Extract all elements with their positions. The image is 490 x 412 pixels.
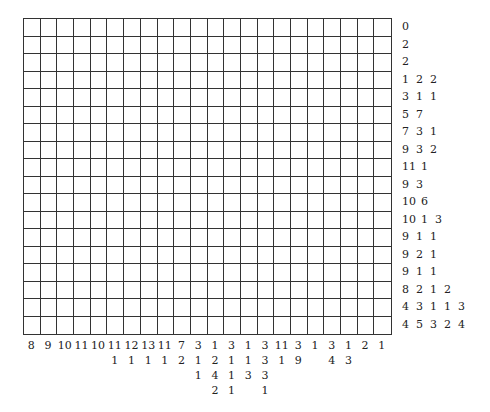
grid-cell[interactable] <box>91 142 108 160</box>
grid-cell[interactable] <box>241 159 258 177</box>
grid-cell[interactable] <box>324 19 341 37</box>
grid-cell[interactable] <box>358 282 375 300</box>
grid-cell[interactable] <box>174 72 191 90</box>
grid-cell[interactable] <box>141 37 158 55</box>
grid-cell[interactable] <box>57 282 74 300</box>
grid-cell[interactable] <box>141 124 158 142</box>
grid-cell[interactable] <box>107 107 124 125</box>
grid-cell[interactable] <box>274 19 291 37</box>
grid-cell[interactable] <box>174 54 191 72</box>
grid-cell[interactable] <box>124 89 141 107</box>
grid-cell[interactable] <box>208 317 225 335</box>
grid-cell[interactable] <box>208 299 225 317</box>
grid-cell[interactable] <box>124 264 141 282</box>
grid-cell[interactable] <box>74 299 91 317</box>
grid-cell[interactable] <box>224 107 241 125</box>
grid-cell[interactable] <box>208 124 225 142</box>
grid-cell[interactable] <box>158 142 175 160</box>
grid-cell[interactable] <box>41 159 58 177</box>
grid-cell[interactable] <box>41 282 58 300</box>
grid-cell[interactable] <box>341 159 358 177</box>
grid-cell[interactable] <box>308 54 325 72</box>
grid-cell[interactable] <box>324 142 341 160</box>
grid-cell[interactable] <box>341 212 358 230</box>
grid-cell[interactable] <box>341 177 358 195</box>
grid-cell[interactable] <box>274 317 291 335</box>
grid-cell[interactable] <box>141 264 158 282</box>
grid-cell[interactable] <box>374 72 391 90</box>
grid-cell[interactable] <box>308 159 325 177</box>
grid-cell[interactable] <box>174 107 191 125</box>
grid-cell[interactable] <box>174 159 191 177</box>
grid-cell[interactable] <box>24 124 41 142</box>
grid-cell[interactable] <box>358 19 375 37</box>
grid-cell[interactable] <box>258 124 275 142</box>
grid-cell[interactable] <box>141 89 158 107</box>
grid-cell[interactable] <box>341 194 358 212</box>
grid-cell[interactable] <box>141 194 158 212</box>
grid-cell[interactable] <box>91 107 108 125</box>
grid-cell[interactable] <box>41 177 58 195</box>
grid-cell[interactable] <box>57 264 74 282</box>
grid-cell[interactable] <box>291 54 308 72</box>
grid-cell[interactable] <box>324 89 341 107</box>
grid-cell[interactable] <box>374 177 391 195</box>
grid-cell[interactable] <box>57 37 74 55</box>
grid-cell[interactable] <box>374 299 391 317</box>
grid-cell[interactable] <box>174 177 191 195</box>
grid-cell[interactable] <box>41 107 58 125</box>
grid-cell[interactable] <box>291 19 308 37</box>
grid-cell[interactable] <box>57 212 74 230</box>
grid-cell[interactable] <box>308 282 325 300</box>
grid-cell[interactable] <box>241 19 258 37</box>
grid-cell[interactable] <box>341 247 358 265</box>
grid-cell[interactable] <box>274 264 291 282</box>
grid-cell[interactable] <box>74 177 91 195</box>
grid-cell[interactable] <box>241 54 258 72</box>
grid-cell[interactable] <box>141 247 158 265</box>
grid-cell[interactable] <box>241 124 258 142</box>
grid-cell[interactable] <box>224 159 241 177</box>
grid-cell[interactable] <box>124 317 141 335</box>
grid-cell[interactable] <box>174 19 191 37</box>
grid-cell[interactable] <box>74 19 91 37</box>
grid-cell[interactable] <box>191 282 208 300</box>
grid-cell[interactable] <box>107 282 124 300</box>
grid-cell[interactable] <box>358 124 375 142</box>
grid-cell[interactable] <box>258 72 275 90</box>
grid-cell[interactable] <box>24 194 41 212</box>
grid-cell[interactable] <box>158 212 175 230</box>
grid-cell[interactable] <box>174 247 191 265</box>
grid-cell[interactable] <box>274 229 291 247</box>
grid-cell[interactable] <box>57 19 74 37</box>
grid-cell[interactable] <box>41 247 58 265</box>
grid-cell[interactable] <box>241 72 258 90</box>
grid-cell[interactable] <box>41 72 58 90</box>
grid-cell[interactable] <box>57 247 74 265</box>
grid-cell[interactable] <box>57 194 74 212</box>
grid-cell[interactable] <box>208 194 225 212</box>
grid-cell[interactable] <box>324 124 341 142</box>
grid-cell[interactable] <box>274 247 291 265</box>
grid-cell[interactable] <box>308 299 325 317</box>
grid-cell[interactable] <box>158 159 175 177</box>
grid-cell[interactable] <box>158 229 175 247</box>
grid-cell[interactable] <box>291 194 308 212</box>
grid-cell[interactable] <box>374 264 391 282</box>
grid-cell[interactable] <box>224 19 241 37</box>
grid-cell[interactable] <box>258 299 275 317</box>
grid-cell[interactable] <box>91 89 108 107</box>
grid-cell[interactable] <box>241 264 258 282</box>
grid-cell[interactable] <box>258 107 275 125</box>
grid-cell[interactable] <box>374 107 391 125</box>
grid-cell[interactable] <box>308 212 325 230</box>
grid-cell[interactable] <box>24 107 41 125</box>
grid-cell[interactable] <box>241 212 258 230</box>
grid-cell[interactable] <box>107 299 124 317</box>
grid-cell[interactable] <box>107 194 124 212</box>
grid-cell[interactable] <box>358 317 375 335</box>
grid-cell[interactable] <box>124 177 141 195</box>
grid-cell[interactable] <box>57 229 74 247</box>
grid-cell[interactable] <box>107 89 124 107</box>
grid-cell[interactable] <box>324 159 341 177</box>
